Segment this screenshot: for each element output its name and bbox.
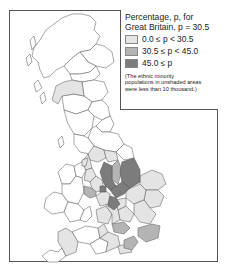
legend-swatch-low (125, 35, 138, 44)
region-south-yorkshire (104, 150, 118, 162)
region-east-sussex (124, 236, 138, 250)
legend-swatch-mid (125, 47, 138, 56)
legend-item-mid: 30.5 ≤ p < 45.0 (125, 47, 215, 56)
legend-label-low: 0.0 ≤ p < 30.5 (142, 35, 193, 44)
legend-note-line3: were less than 10 thousand.) (125, 86, 215, 92)
map-legend: Percentage, p, for Great Britain, p = 30… (120, 10, 218, 110)
legend-item-low: 0.0 ≤ p < 30.5 (125, 35, 215, 44)
legend-label-high: 45.0 ≤ p (142, 59, 172, 68)
region-warwickshire (96, 190, 110, 206)
region-norfolk (140, 170, 166, 190)
region-kent (138, 224, 160, 242)
region-cornwall (42, 248, 66, 262)
region-west-midlands (100, 186, 106, 192)
legend-swatch-high (125, 59, 138, 68)
legend-label-mid: 30.5 ≤ p < 45.0 (142, 47, 198, 56)
legend-note: (The ethnic minority populations in unsh… (125, 73, 215, 92)
legend-item-high: 45.0 ≤ p (125, 59, 215, 68)
region-berkshire-surrey (112, 222, 130, 234)
legend-title-line2: Great Britain, p = 30.5 (125, 23, 215, 33)
region-cumbria (64, 110, 94, 136)
region-isle-of-man (58, 136, 64, 148)
